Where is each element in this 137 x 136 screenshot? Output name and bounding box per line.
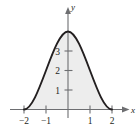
y-tick-label-1: 1: [55, 86, 60, 96]
y-tick-label-3: 3: [55, 47, 60, 57]
x-tick-label-2: 2: [110, 116, 115, 126]
x-axis-label: x: [130, 105, 135, 115]
x-tick-label-neg2: −2: [19, 116, 29, 126]
y-tick-label-2: 2: [55, 66, 60, 76]
y-axis-label: y: [70, 2, 75, 12]
x-tick-label-1: 1: [88, 116, 93, 126]
plot-canvas: −2 −1 1 2 1 2 3 x y: [0, 0, 137, 136]
parabola-figure: −2 −1 1 2 1 2 3 x y: [0, 0, 137, 136]
x-tick-label-neg1: −1: [41, 116, 51, 126]
